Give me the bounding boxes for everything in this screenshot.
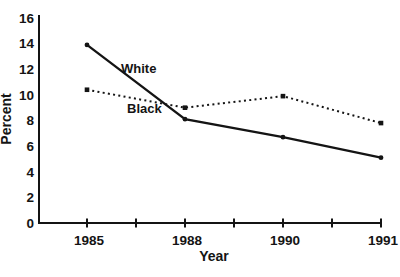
y-tick-label: 6: [26, 139, 34, 154]
y-axis-title: Percent: [0, 93, 14, 145]
series-label-black: Black: [127, 101, 162, 116]
page: 02468101214161985198819901991WhiteBlackY…: [0, 0, 400, 277]
x-tick-label: 1988: [172, 233, 203, 248]
x-tick-label: 1991: [368, 233, 399, 248]
y-tick-label: 8: [26, 113, 34, 128]
x-tick-label: 1990: [270, 233, 300, 248]
y-tick-label: 14: [19, 36, 35, 51]
y-tick-label: 4: [26, 165, 34, 180]
y-tick-label: 0: [26, 216, 34, 231]
y-tick-label: 10: [19, 88, 34, 103]
series-black-marker: [379, 121, 384, 126]
series-white-marker: [379, 155, 384, 160]
x-axis-title: Year: [199, 248, 229, 264]
series-white-marker: [85, 43, 90, 48]
series-white-marker: [281, 135, 286, 140]
series-label-white: White: [121, 61, 156, 76]
line-chart: 02468101214161985198819901991WhiteBlackY…: [0, 0, 400, 277]
line-chart-svg: 02468101214161985198819901991WhiteBlackY…: [0, 0, 400, 277]
y-tick-label: 12: [19, 62, 34, 77]
series-black-marker: [183, 105, 188, 110]
series-black-marker: [281, 94, 286, 99]
y-tick-label: 2: [26, 190, 34, 205]
x-tick-label: 1985: [74, 233, 105, 248]
y-tick-label: 16: [19, 11, 35, 26]
series-white-marker: [183, 117, 188, 122]
series-black-marker: [85, 87, 90, 92]
